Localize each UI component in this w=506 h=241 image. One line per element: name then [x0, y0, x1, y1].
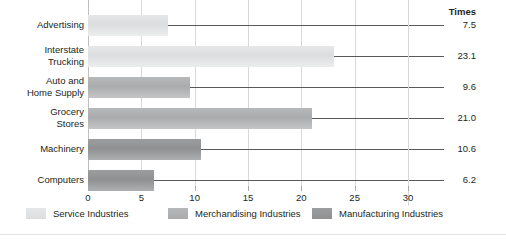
x-tick-label: 30 [403, 192, 414, 203]
value-label: 21.0 [430, 112, 476, 123]
category-label: InterstateTrucking [0, 44, 84, 67]
category-label: GroceryStores [0, 106, 84, 129]
legend-label: Merchandising Industries [195, 208, 301, 219]
value-label: 23.1 [430, 50, 476, 61]
bar-row [88, 41, 408, 72]
category-axis-labels: AdvertisingInterstateTruckingAuto andHom… [0, 0, 84, 186]
bar[interactable] [88, 46, 334, 67]
bar-row [88, 10, 408, 41]
category-label: Computers [0, 174, 84, 186]
x-tick [88, 186, 89, 191]
category-label-line: Home Supply [0, 87, 84, 99]
value-label: 9.6 [430, 81, 476, 92]
x-tick [355, 186, 356, 191]
x-tick-label: 25 [349, 192, 360, 203]
value-column: Times 7.523.19.621.010.66.2 [430, 0, 506, 186]
category-label-line: Grocery [0, 106, 84, 118]
category-label-line: Stores [0, 118, 84, 130]
x-tick [301, 186, 302, 191]
legend-label: Manufacturing Industries [339, 208, 443, 219]
value-leader-line [154, 180, 444, 181]
bar-row [88, 103, 408, 134]
value-leader-line [190, 87, 444, 88]
chart-figure: AdvertisingInterstateTruckingAuto andHom… [0, 0, 506, 241]
legend-item-service[interactable]: Service Industries [26, 208, 129, 219]
x-tick-label: 20 [296, 192, 307, 203]
value-leader-line [312, 118, 444, 119]
value-leader-line [334, 56, 444, 57]
category-label: Machinery [0, 143, 84, 155]
legend-item-merch[interactable]: Merchandising Industries [168, 208, 301, 219]
value-column-header: Times [430, 6, 476, 17]
value-label: 6.2 [430, 174, 476, 185]
bar-row [88, 134, 408, 165]
category-label-line: Auto and [0, 75, 84, 87]
legend-label: Service Industries [53, 208, 129, 219]
category-label-line: Advertising [0, 19, 84, 31]
x-tick-label: 10 [189, 192, 200, 203]
legend-item-manuf[interactable]: Manufacturing Industries [312, 208, 443, 219]
category-label-line: Computers [0, 174, 84, 186]
value-label: 7.5 [430, 19, 476, 30]
category-label: Advertising [0, 19, 84, 31]
legend-swatch-service [26, 208, 46, 219]
category-label-line: Trucking [0, 56, 84, 68]
bar[interactable] [88, 15, 168, 36]
x-tick-label: 0 [85, 192, 90, 203]
plot-area [88, 0, 408, 186]
x-tick [141, 186, 142, 191]
x-tick [408, 186, 409, 191]
bar[interactable] [88, 77, 190, 98]
bar-row [88, 72, 408, 103]
chart-legend: Service IndustriesMerchandising Industri… [0, 208, 506, 232]
bar[interactable] [88, 108, 312, 129]
x-tick [248, 186, 249, 191]
x-tick-label: 15 [243, 192, 254, 203]
value-label: 10.6 [430, 143, 476, 154]
category-label: Auto andHome Supply [0, 75, 84, 98]
plot-right-border [408, 0, 409, 206]
category-label-line: Interstate [0, 44, 84, 56]
figure-bottom-border [0, 234, 506, 235]
bar-rows [88, 0, 408, 186]
category-label-line: Machinery [0, 143, 84, 155]
x-tick-label: 5 [139, 192, 144, 203]
legend-swatch-manuf [312, 208, 332, 219]
bar[interactable] [88, 139, 201, 160]
legend-swatch-merch [168, 208, 188, 219]
value-leader-line [168, 25, 444, 26]
x-tick [195, 186, 196, 191]
x-axis: 051015202530 [88, 186, 408, 206]
